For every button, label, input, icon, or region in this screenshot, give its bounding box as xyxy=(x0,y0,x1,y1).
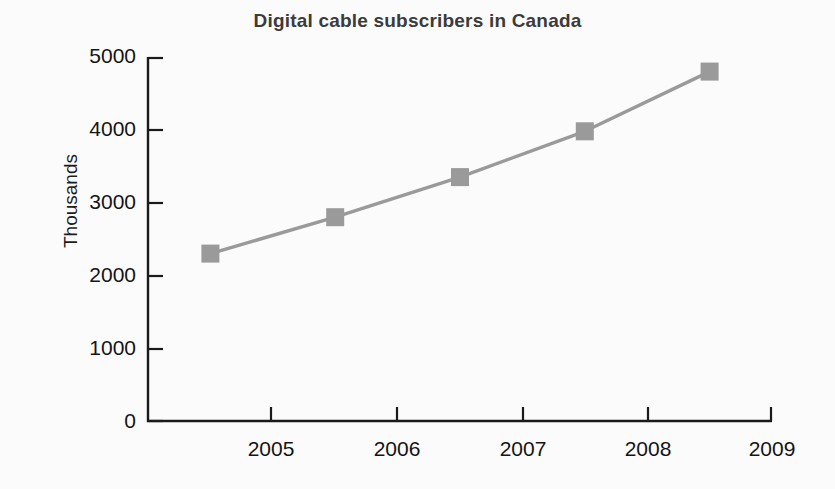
y-axis-ticks xyxy=(148,58,163,421)
data-point-marker xyxy=(326,208,344,226)
data-point-marker xyxy=(701,63,719,81)
plot-area xyxy=(0,0,835,489)
data-point-marker xyxy=(451,168,469,186)
data-point-marker xyxy=(576,122,594,140)
x-axis-ticks xyxy=(271,407,771,421)
chart-figure: Digital cable subscribers in Canada Thou… xyxy=(0,0,835,489)
data-series-line xyxy=(201,63,718,263)
axis-lines xyxy=(147,57,772,422)
data-point-marker xyxy=(201,245,219,263)
